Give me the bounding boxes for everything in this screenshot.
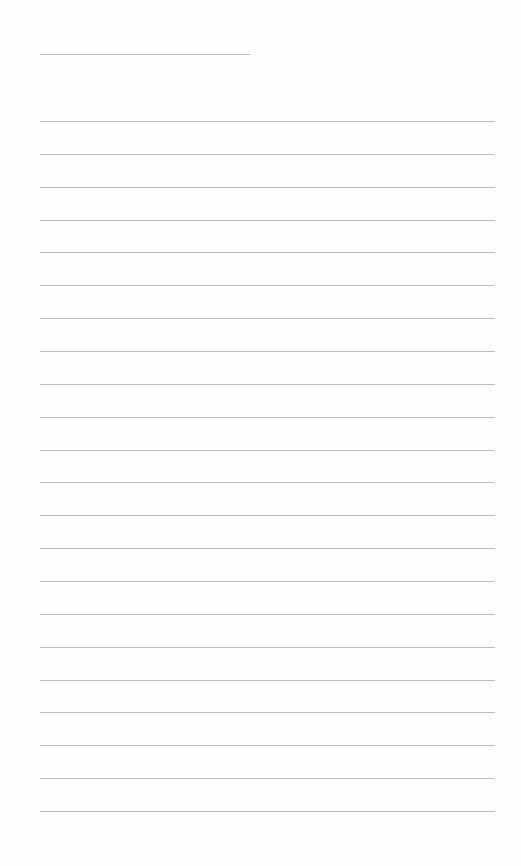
writing-line [40, 515, 495, 516]
title-line [40, 54, 250, 55]
writing-line [40, 712, 495, 713]
writing-line [40, 581, 495, 582]
writing-line [40, 778, 495, 779]
writing-line [40, 614, 495, 615]
writing-line [40, 647, 495, 648]
writing-line [40, 318, 495, 319]
writing-line [40, 220, 495, 221]
writing-line [40, 121, 495, 122]
writing-line [40, 548, 495, 549]
writing-line [40, 285, 495, 286]
writing-line [40, 745, 495, 746]
writing-line [40, 680, 495, 681]
writing-line [40, 811, 495, 812]
writing-line [40, 450, 495, 451]
writing-line [40, 154, 495, 155]
writing-line [40, 417, 495, 418]
writing-line [40, 351, 495, 352]
writing-line [40, 252, 495, 253]
writing-line [40, 482, 495, 483]
lined-page [0, 0, 521, 866]
writing-line [40, 384, 495, 385]
writing-line [40, 187, 495, 188]
